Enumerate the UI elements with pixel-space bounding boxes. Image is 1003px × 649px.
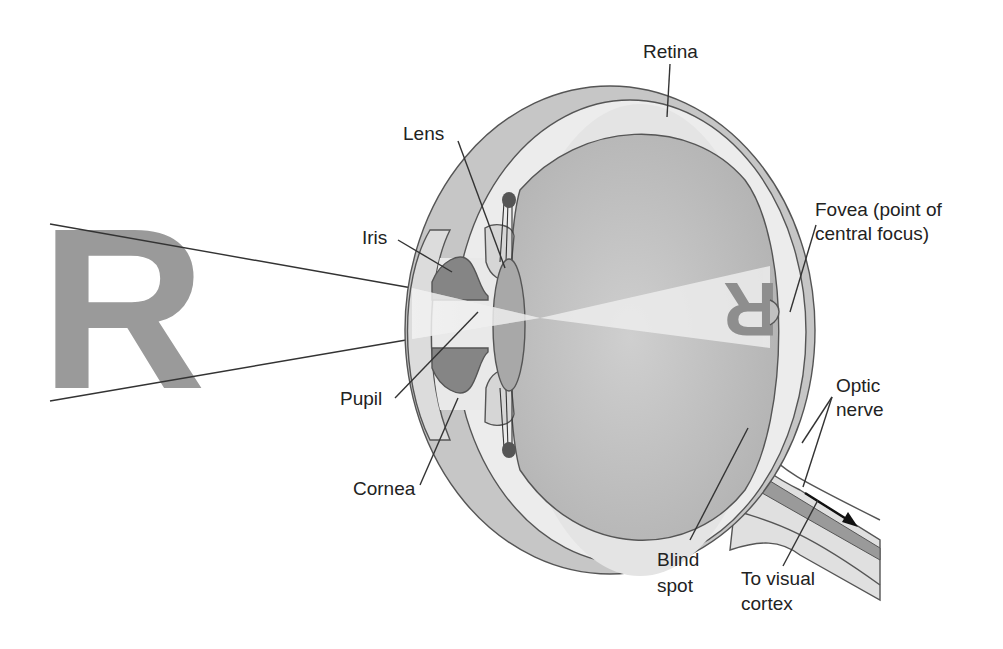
label-pupil: Pupil bbox=[340, 388, 382, 409]
ciliary-muscle-bottom bbox=[502, 442, 516, 458]
label-retina: Retina bbox=[643, 41, 698, 62]
label-visual-cortex-line1: To visual bbox=[741, 568, 815, 589]
label-fovea-line1: Fovea (point of bbox=[815, 199, 942, 220]
ciliary-muscle-top bbox=[502, 192, 516, 208]
lens bbox=[493, 259, 525, 391]
label-lens: Lens bbox=[403, 123, 444, 144]
label-optic-nerve-line1: Optic bbox=[836, 375, 880, 396]
label-cornea: Cornea bbox=[353, 478, 416, 499]
label-iris: Iris bbox=[362, 227, 387, 248]
label-fovea-line2: central focus) bbox=[815, 223, 929, 244]
retinal-image-r: R bbox=[723, 267, 778, 352]
label-blind-spot-line2: spot bbox=[657, 575, 694, 596]
label-blind-spot-line1: Blind bbox=[657, 549, 699, 570]
label-optic-nerve-line2: nerve bbox=[836, 399, 884, 420]
svg-text:R: R bbox=[723, 267, 778, 352]
label-visual-cortex-line2: cortex bbox=[741, 593, 793, 614]
eye-diagram: R bbox=[0, 0, 1003, 649]
